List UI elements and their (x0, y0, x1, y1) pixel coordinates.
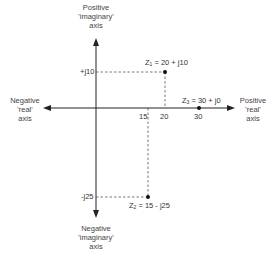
z3-label: Z3 = 30 + j0 (182, 96, 221, 107)
label-line: Positive (233, 96, 273, 105)
negative-imaginary-axis-label: Negative 'imaginary' axis (66, 224, 126, 251)
tick-real-20: 20 (160, 112, 168, 121)
arrow-down-icon (93, 210, 99, 218)
label-line: axis (66, 242, 126, 251)
label-line: 'imaginary' (66, 233, 126, 242)
tick-real-15: 15 (139, 112, 147, 121)
label-line: Negative (5, 96, 45, 105)
label-line: 'real' (233, 105, 273, 114)
label-line: axis (5, 114, 45, 123)
arrow-up-icon (93, 38, 99, 46)
label-line: Negative (66, 224, 126, 233)
tick-real-30: 30 (194, 112, 202, 121)
positive-imaginary-axis-label: Positive 'imaginary' axis (66, 3, 126, 30)
z2-label: Z2 = 15 - j25 (129, 201, 170, 212)
label-line: Positive (66, 3, 126, 12)
argand-diagram (0, 0, 278, 258)
label-line: axis (66, 21, 126, 30)
tick-imag-positive: +j10 (80, 67, 94, 76)
z1-expression: = 20 + j10 (152, 58, 187, 67)
negative-real-axis-label: Negative 'real' axis (5, 96, 45, 123)
z3-expression: = 30 + j0 (189, 96, 220, 105)
z1-label: Z1 = 20 + j10 (145, 58, 188, 69)
point-z1 (163, 70, 167, 74)
z2-expression: = 15 - j25 (136, 201, 170, 210)
label-line: 'imaginary' (66, 12, 126, 21)
point-z2 (146, 195, 150, 199)
positive-real-axis-label: Positive 'real' axis (233, 96, 273, 123)
tick-imag-negative: -j25 (81, 192, 94, 201)
label-line: axis (233, 114, 273, 123)
label-line: 'real' (5, 105, 45, 114)
